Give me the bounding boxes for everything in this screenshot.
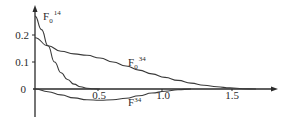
- y-tick-label: 0.1: [15, 56, 29, 68]
- series-label-f0-14: F014: [43, 9, 61, 25]
- series-label-f0-34: F034: [128, 55, 146, 71]
- y-axis-arrow-icon: [33, 5, 38, 12]
- y-tick-label: 0.2: [15, 29, 29, 41]
- x-axis-arrow-icon: [271, 87, 278, 92]
- series-label-f-34: F34: [128, 96, 142, 108]
- series-f0-34-line: [35, 38, 256, 89]
- y-tick-label: 0: [21, 83, 27, 95]
- chart: 0.2 0.1 0 0.5 1.0 1.5 F014 F034 F34: [0, 0, 293, 126]
- x-tick-label: 1.5: [225, 89, 239, 101]
- x-tick-label: 0.5: [92, 89, 106, 101]
